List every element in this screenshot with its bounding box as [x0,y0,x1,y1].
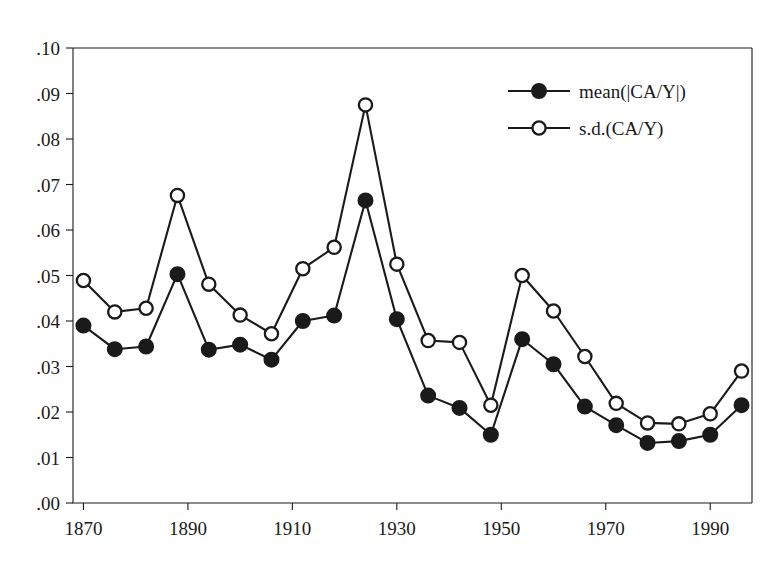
series-line [83,200,741,443]
y-tick-label: .06 [36,220,60,241]
legend-entry: mean(|CA/Y|) [508,81,686,103]
data-point-marker-open [328,241,341,254]
data-point-marker-filled [202,342,216,356]
data-point-marker-open [610,397,623,410]
data-point-marker-open [390,258,403,271]
data-point-marker-open [641,416,654,429]
x-tick-label: 1910 [273,518,311,539]
data-point-marker-filled [264,352,278,366]
data-point-marker-open [171,189,184,202]
y-tick-label: .02 [36,402,60,423]
x-tick-label: 1870 [64,518,102,539]
data-point-marker-filled [703,428,717,442]
data-point-marker-open [704,407,717,420]
data-point-marker-open [484,399,497,412]
data-point-marker-filled [452,401,466,415]
data-series [76,98,749,450]
y-tick-label: .10 [36,38,60,59]
data-point-marker-open [265,327,278,340]
data-point-marker-filled [734,398,748,412]
data-point-marker-filled [546,357,560,371]
data-point-marker-filled [233,337,247,351]
data-point-marker-filled [421,388,435,402]
legend-marker-open [532,121,545,134]
series-sd [77,98,748,430]
series-mean [76,193,749,450]
data-point-marker-filled [640,436,654,450]
data-point-marker-filled [515,332,529,346]
legend-marker-filled [532,84,546,98]
chart-container: .00.01.02.03.04.05.06.07.08.09.10 187018… [0,0,784,570]
data-point-marker-open [453,336,466,349]
data-point-marker-filled [672,434,686,448]
data-point-marker-open [108,305,121,318]
y-tick-label: .09 [36,84,60,105]
data-point-marker-filled [484,428,498,442]
x-tick-label: 1990 [691,518,729,539]
y-tick-label: .04 [36,311,60,332]
data-point-marker-filled [296,314,310,328]
data-point-marker-open [140,302,153,315]
x-tick-label: 1930 [378,518,416,539]
y-tick-label: .08 [36,129,60,150]
x-tick-label: 1950 [482,518,520,539]
data-point-marker-filled [390,312,404,326]
data-point-marker-open [735,364,748,377]
data-point-marker-filled [327,308,341,322]
data-point-marker-filled [609,418,623,432]
y-axis-tick-labels: .00.01.02.03.04.05.06.07.08.09.10 [36,38,73,514]
x-tick-label: 1890 [169,518,207,539]
data-point-marker-filled [358,193,372,207]
data-point-marker-open [547,304,560,317]
legend-entry: s.d.(CA/Y) [508,118,663,140]
data-point-marker-open [578,350,591,363]
series-line [83,105,741,424]
data-point-marker-open [202,278,215,291]
data-point-marker-filled [170,267,184,281]
chart-legend: mean(|CA/Y|)s.d.(CA/Y) [508,81,686,140]
data-point-marker-open [234,308,247,321]
y-tick-label: .03 [36,357,60,378]
data-point-marker-open [672,417,685,430]
data-point-marker-open [296,262,309,275]
legend-label: s.d.(CA/Y) [579,118,663,140]
x-axis-tick-labels: 1870189019101930195019701990 [64,503,729,539]
data-point-marker-filled [139,339,153,353]
y-tick-label: .05 [36,266,60,287]
data-point-marker-filled [76,318,90,332]
data-point-marker-filled [578,399,592,413]
line-chart: .00.01.02.03.04.05.06.07.08.09.10 187018… [0,0,784,570]
legend-label: mean(|CA/Y|) [579,81,686,103]
data-point-marker-open [516,269,529,282]
x-tick-label: 1970 [587,518,625,539]
data-point-marker-open [359,98,372,111]
y-tick-label: .01 [36,448,60,469]
data-point-marker-filled [108,342,122,356]
data-point-marker-open [77,274,90,287]
data-point-marker-open [422,334,435,347]
y-tick-label: .00 [36,493,60,514]
y-tick-label: .07 [36,175,60,196]
